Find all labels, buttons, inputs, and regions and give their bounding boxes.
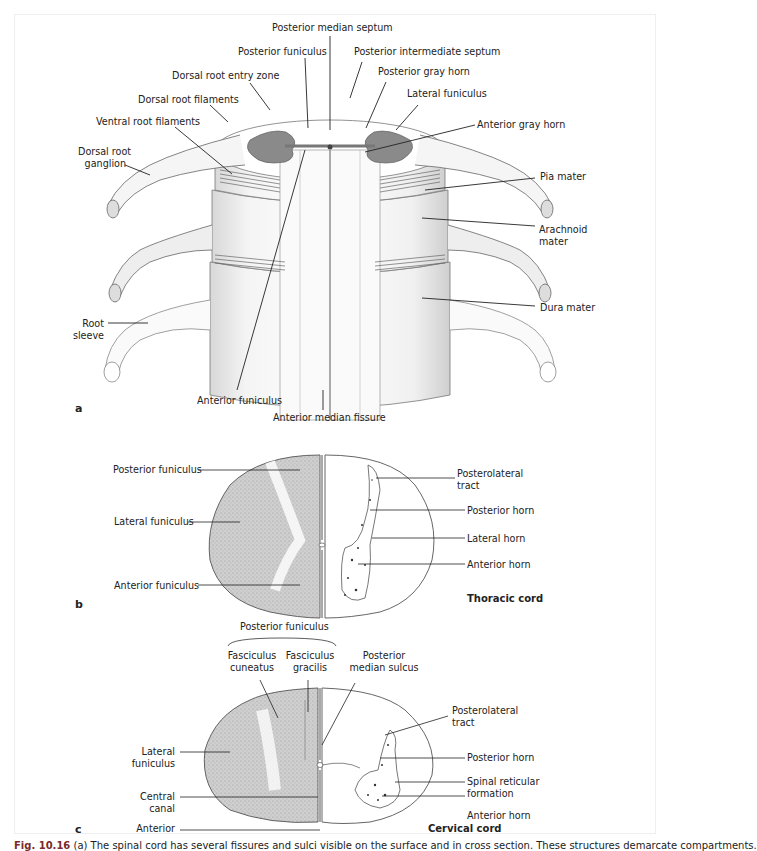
label-c-lateral-funiculus-2: funiculus xyxy=(100,758,175,770)
label-lateral-funiculus: Lateral funiculus xyxy=(407,88,487,100)
label-dorsal-root-filaments: Dorsal root filaments xyxy=(138,94,239,106)
label-c-posterior-median-sulcus-2: median sulcus xyxy=(344,662,424,674)
label-b-posterolateral-tract-1: Posterolateral xyxy=(457,468,523,480)
label-posterior-funiculus: Posterior funiculus xyxy=(238,46,327,58)
label-c-posterior-median-sulcus-1: Posterior xyxy=(344,650,424,662)
panel-b-title: Thoracic cord xyxy=(467,593,543,604)
panel-letter-a: a xyxy=(75,402,82,415)
label-c-fasciculus-cuneatus-1: Fasciculus xyxy=(222,650,282,662)
label-c-posterolateral-tract-2: tract xyxy=(452,717,475,729)
panel-c-title: Cervical cord xyxy=(428,823,501,834)
label-c-posterior-funiculus: Posterior funiculus xyxy=(240,621,329,633)
label-c-spinal-reticular-2: formation xyxy=(467,788,514,800)
label-dorsal-root-ganglion-2: ganglion xyxy=(78,158,126,170)
label-dorsal-root-entry-zone: Dorsal root entry zone xyxy=(172,70,279,82)
label-ventral-root-filaments: Ventral root filaments xyxy=(96,116,200,128)
label-b-posterior-funiculus: Posterior funiculus xyxy=(113,464,202,476)
label-c-spinal-reticular-1: Spinal reticular xyxy=(467,776,539,788)
label-dura-mater: Dura mater xyxy=(540,302,595,314)
caption-text: (a) The spinal cord has several fissures… xyxy=(70,840,756,851)
label-c-fasciculus-cuneatus-2: cuneatus xyxy=(222,662,282,674)
label-c-fasciculus-gracilis-1: Fasciculus xyxy=(280,650,340,662)
label-anterior-median-fissure: Anterior median fissure xyxy=(273,412,386,424)
panel-letter-b: b xyxy=(75,598,83,611)
label-posterior-intermediate-septum: Posterior intermediate septum xyxy=(354,46,500,58)
label-b-anterior-horn: Anterior horn xyxy=(467,559,531,571)
label-c-posterior-horn: Posterior horn xyxy=(467,752,534,764)
figure-number: Fig. 10.16 xyxy=(14,840,70,851)
label-pia-mater: Pia mater xyxy=(540,171,586,183)
label-root-sleeve-1: Root xyxy=(70,318,104,330)
label-c-anterior-median-fissure-1: Anterior xyxy=(95,823,175,835)
label-b-posterior-horn: Posterior horn xyxy=(467,505,534,517)
label-c-fasciculus-gracilis-2: gracilis xyxy=(280,662,340,674)
panel-letter-c: c xyxy=(75,823,82,836)
label-arachnoid-mater-1: Arachnoid xyxy=(539,224,587,236)
label-c-central-canal-2: canal xyxy=(100,803,175,815)
figure-caption: Fig. 10.16 (a) The spinal cord has sever… xyxy=(14,840,757,851)
label-anterior-funiculus: Anterior funiculus xyxy=(197,395,282,407)
label-posterior-median-septum: Posterior median septum xyxy=(272,22,393,34)
label-b-anterior-funiculus: Anterior funiculus xyxy=(114,580,199,592)
label-c-posterolateral-tract-1: Posterolateral xyxy=(452,705,518,717)
label-b-lateral-funiculus: Lateral funiculus xyxy=(114,516,194,528)
label-anterior-gray-horn: Anterior gray horn xyxy=(477,119,565,131)
label-arachnoid-mater-2: mater xyxy=(539,236,568,248)
label-b-lateral-horn: Lateral horn xyxy=(467,533,525,545)
label-c-central-canal-1: Central xyxy=(100,791,175,803)
label-root-sleeve-2: sleeve xyxy=(70,330,104,342)
label-b-posterolateral-tract-2: tract xyxy=(457,480,480,492)
label-c-anterior-horn: Anterior horn xyxy=(467,810,531,822)
label-posterior-gray-horn: Posterior gray horn xyxy=(378,66,470,78)
label-c-lateral-funiculus-1: Lateral xyxy=(100,746,175,758)
label-dorsal-root-ganglion-1: Dorsal root xyxy=(78,146,126,158)
